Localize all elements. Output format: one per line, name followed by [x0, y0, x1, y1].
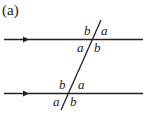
angle-label: b	[94, 40, 101, 55]
angle-label: a	[101, 23, 108, 38]
angle-label: b	[84, 23, 91, 38]
transversal-line	[61, 20, 101, 110]
angle-label: a	[53, 94, 60, 109]
arrow-icon	[23, 37, 29, 43]
angle-label: b	[70, 94, 77, 109]
arrow-icon	[23, 91, 29, 97]
figure-label: (a)	[2, 2, 19, 19]
angle-label: b	[59, 77, 66, 92]
parallel-lines-diagram: (a) b a a b b a a b	[0, 0, 143, 118]
angle-label: a	[78, 77, 85, 92]
angle-label: a	[77, 40, 84, 55]
